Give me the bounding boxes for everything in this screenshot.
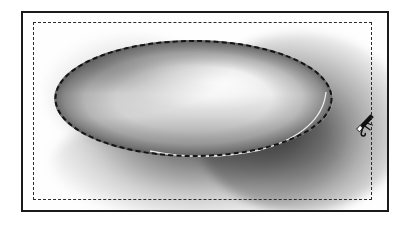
bowl-inner-rim-shading <box>54 40 333 157</box>
illustration-canvas <box>23 13 387 210</box>
figure-root <box>0 0 413 229</box>
bowl-ellipse <box>54 40 333 157</box>
outer-solid-frame <box>21 11 389 212</box>
small-figure-on-rim-icon <box>354 112 376 138</box>
